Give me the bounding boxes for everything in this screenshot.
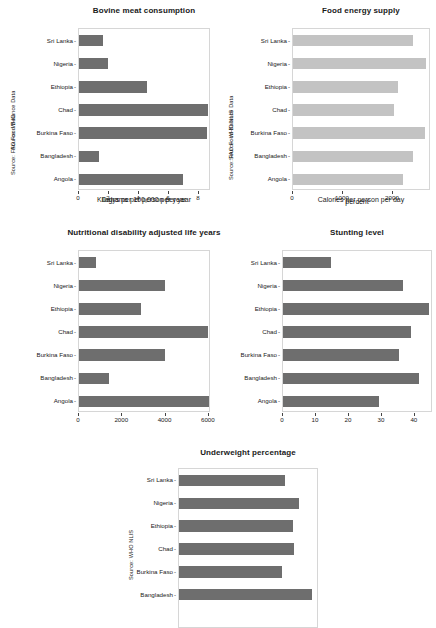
bar-bovine-meat-consumption-angola bbox=[79, 174, 183, 186]
chart-panel-food-energy-supply: Food energy supplySource: FAO Food Balan… bbox=[218, 6, 436, 218]
category-tick-bovine-meat-consumption-3: - bbox=[74, 106, 76, 113]
category-label-bovine-meat-consumption-bangladesh: Bangladesh bbox=[40, 152, 73, 159]
category-tick-nutritional-dalys-5: - bbox=[74, 374, 76, 381]
bar-bovine-meat-consumption-ethiopia bbox=[79, 81, 147, 93]
bar-stunting-level-burkina-faso bbox=[283, 349, 399, 361]
category-label-stunting-level-ethiopia: Ethiopia bbox=[255, 304, 277, 311]
category-tick-stunting-level-4: - bbox=[278, 351, 280, 358]
bar-bovine-meat-consumption-nigeria bbox=[79, 58, 108, 70]
category-tick-food-energy-supply-2: - bbox=[288, 82, 290, 89]
plot-area-food-energy-supply bbox=[292, 28, 430, 190]
category-tick-underweight-percentage-2: - bbox=[174, 522, 176, 529]
plot-area-stunting-level bbox=[282, 250, 432, 412]
x-tick-label-stunting-level-2: 20 bbox=[344, 416, 351, 423]
category-tick-food-energy-supply-5: - bbox=[288, 152, 290, 159]
chart-panel-underweight-percentage: Underweight percentageSource: WHO NLISSr… bbox=[100, 448, 330, 608]
category-tick-stunting-level-3: - bbox=[278, 328, 280, 335]
category-label-nutritional-dalys-ethiopia: Ethiopia bbox=[51, 304, 73, 311]
chart-xlabel-stunting-level: percent bbox=[222, 198, 436, 205]
category-label-food-energy-supply-sri-lanka: Sri Lanka bbox=[261, 36, 287, 43]
category-tick-nutritional-dalys-4: - bbox=[74, 351, 76, 358]
bar-food-energy-supply-angola bbox=[293, 174, 403, 186]
bar-food-energy-supply-ethiopia bbox=[293, 81, 398, 93]
category-label-bovine-meat-consumption-nigeria: Nigeria bbox=[53, 59, 73, 66]
x-tick-label-nutritional-dalys-1: 2000 bbox=[114, 416, 128, 423]
category-label-stunting-level-burkina-faso: Burkina Faso bbox=[241, 351, 277, 358]
bar-stunting-level-bangladesh bbox=[283, 373, 419, 385]
bar-bovine-meat-consumption-bangladesh bbox=[79, 151, 99, 163]
bar-nutritional-dalys-burkina-faso bbox=[79, 349, 165, 361]
category-tick-bovine-meat-consumption-2: - bbox=[74, 82, 76, 89]
category-label-nutritional-dalys-angola: Angola bbox=[54, 397, 73, 404]
category-tick-food-energy-supply-6: - bbox=[288, 175, 290, 182]
category-label-bovine-meat-consumption-ethiopia: Ethiopia bbox=[51, 82, 73, 89]
chart-title-stunting-level: Stunting level bbox=[222, 228, 436, 237]
category-tick-food-energy-supply-0: - bbox=[288, 36, 290, 43]
category-label-underweight-percentage-bangladesh: Bangladesh bbox=[140, 590, 173, 597]
category-tick-stunting-level-2: - bbox=[278, 304, 280, 311]
category-label-stunting-level-sri-lanka: Sri Lanka bbox=[251, 258, 277, 265]
chart-ylabel-nutritional-dalys: Source: WHO bbox=[10, 114, 16, 150]
chart-panel-bovine-meat-consumption: Bovine meat consumptionSource: FAO Food … bbox=[0, 6, 218, 218]
bar-food-energy-supply-bangladesh bbox=[293, 151, 413, 163]
chart-ylabel-underweight-percentage: Source: WHO NLIS bbox=[128, 530, 134, 580]
bar-bovine-meat-consumption-sri-lanka bbox=[79, 35, 103, 47]
category-label-underweight-percentage-ethiopia: Ethiopia bbox=[151, 522, 173, 529]
category-tick-underweight-percentage-1: - bbox=[174, 499, 176, 506]
category-tick-bovine-meat-consumption-4: - bbox=[74, 129, 76, 136]
category-label-bovine-meat-consumption-chad: Chad bbox=[58, 106, 73, 113]
bar-food-energy-supply-chad bbox=[293, 104, 394, 116]
chart-panel-nutritional-dalys: Nutritional disability adjusted life yea… bbox=[0, 228, 230, 440]
chart-title-underweight-percentage: Underweight percentage bbox=[118, 448, 378, 457]
bar-stunting-level-nigeria bbox=[283, 280, 403, 292]
x-tick-label-stunting-level-4: 40 bbox=[410, 416, 417, 423]
bar-nutritional-dalys-chad bbox=[79, 326, 208, 338]
category-label-bovine-meat-consumption-burkina-faso: Burkina Faso bbox=[37, 129, 73, 136]
x-tick-label-stunting-level-3: 30 bbox=[377, 416, 384, 423]
bar-underweight-percentage-burkina-faso bbox=[179, 566, 282, 577]
category-tick-underweight-percentage-3: - bbox=[174, 545, 176, 552]
x-tick-label-nutritional-dalys-3: 6000 bbox=[201, 416, 215, 423]
chart-ylabel-stunting-level: Source: WHO NLIS bbox=[228, 110, 234, 160]
category-label-bovine-meat-consumption-angola: Angola bbox=[54, 175, 73, 182]
category-tick-nutritional-dalys-1: - bbox=[74, 281, 76, 288]
bar-nutritional-dalys-ethiopia bbox=[79, 303, 141, 315]
category-tick-underweight-percentage-5: - bbox=[174, 590, 176, 597]
x-tick-label-nutritional-dalys-2: 4000 bbox=[158, 416, 172, 423]
category-label-bovine-meat-consumption-sri-lanka: Sri Lanka bbox=[47, 36, 73, 43]
category-tick-nutritional-dalys-6: - bbox=[74, 397, 76, 404]
category-label-nutritional-dalys-nigeria: Nigeria bbox=[53, 281, 73, 288]
category-tick-bovine-meat-consumption-6: - bbox=[74, 175, 76, 182]
category-tick-stunting-level-5: - bbox=[278, 374, 280, 381]
category-label-underweight-percentage-sri-lanka: Sri Lanka bbox=[147, 476, 173, 483]
bar-underweight-percentage-nigeria bbox=[179, 498, 299, 509]
bar-nutritional-dalys-angola bbox=[79, 396, 209, 408]
chart-panel-stunting-level: Stunting levelSource: WHO NLISSri Lanka-… bbox=[218, 228, 436, 443]
category-tick-bovine-meat-consumption-0: - bbox=[74, 36, 76, 43]
bar-underweight-percentage-chad bbox=[179, 543, 294, 554]
x-tick-label-stunting-level-1: 10 bbox=[312, 416, 319, 423]
category-tick-nutritional-dalys-3: - bbox=[74, 328, 76, 335]
bar-stunting-level-ethiopia bbox=[283, 303, 429, 315]
category-tick-nutritional-dalys-2: - bbox=[74, 304, 76, 311]
category-label-underweight-percentage-burkina-faso: Burkina Faso bbox=[137, 567, 173, 574]
category-tick-food-energy-supply-3: - bbox=[288, 106, 290, 113]
category-label-nutritional-dalys-chad: Chad bbox=[58, 328, 73, 335]
category-label-food-energy-supply-nigeria: Nigeria bbox=[267, 59, 287, 66]
category-tick-stunting-level-1: - bbox=[278, 281, 280, 288]
category-label-nutritional-dalys-burkina-faso: Burkina Faso bbox=[37, 351, 73, 358]
category-label-underweight-percentage-nigeria: Nigeria bbox=[153, 499, 173, 506]
bar-nutritional-dalys-sri-lanka bbox=[79, 257, 96, 269]
bar-underweight-percentage-bangladesh bbox=[179, 589, 312, 600]
bar-food-energy-supply-sri-lanka bbox=[293, 35, 413, 47]
plot-area-nutritional-dalys bbox=[78, 250, 210, 412]
category-label-underweight-percentage-chad: Chad bbox=[158, 545, 173, 552]
category-tick-underweight-percentage-0: - bbox=[174, 476, 176, 483]
category-tick-bovine-meat-consumption-5: - bbox=[74, 152, 76, 159]
bar-food-energy-supply-burkina-faso bbox=[293, 127, 425, 139]
chart-title-food-energy-supply: Food energy supply bbox=[232, 6, 436, 15]
category-tick-bovine-meat-consumption-1: - bbox=[74, 59, 76, 66]
category-tick-stunting-level-6: - bbox=[278, 397, 280, 404]
category-label-nutritional-dalys-sri-lanka: Sri Lanka bbox=[47, 258, 73, 265]
